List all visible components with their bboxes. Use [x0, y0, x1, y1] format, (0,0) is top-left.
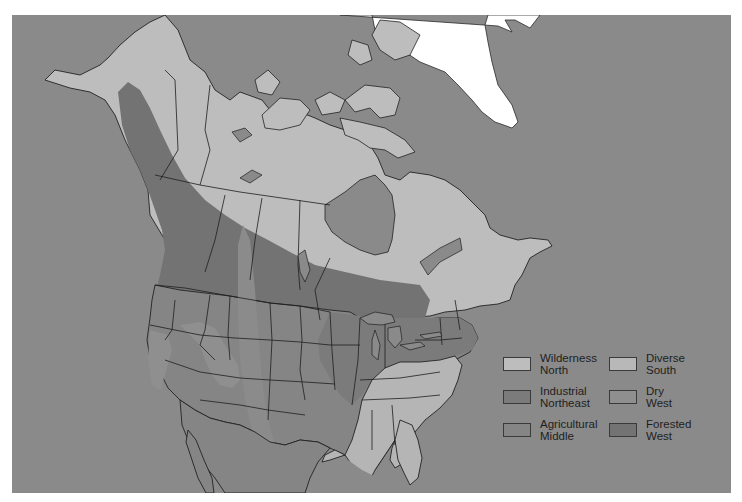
legend-label: Dry West: [646, 385, 672, 409]
swatch-forested-west: [609, 423, 637, 437]
legend-label-line2: West: [646, 430, 691, 442]
legend-label: Agricultural Middle: [540, 418, 598, 442]
legend-label: Wilderness North: [540, 352, 597, 376]
legend-label: Diverse South: [646, 352, 685, 376]
swatch-diverse-south: [609, 357, 637, 371]
legend-label-line1: Dry: [646, 385, 672, 397]
legend-label-line1: Industrial: [540, 385, 590, 397]
legend-item-forested-west: Forested West: [609, 418, 691, 442]
legend-label-line2: North: [540, 364, 597, 376]
swatch-industrial-northeast: [503, 390, 531, 404]
legend-label-line2: Northeast: [540, 397, 590, 409]
swatch-agricultural-middle: [503, 423, 531, 437]
swatch-dry-west: [609, 390, 637, 404]
legend-label-line1: Agricultural: [540, 418, 598, 430]
legend-item-wilderness-north: Wilderness North: [503, 352, 597, 376]
legend-item-agricultural-middle: Agricultural Middle: [503, 418, 598, 442]
legend-label: Forested West: [646, 418, 691, 442]
legend-label-line1: Diverse: [646, 352, 685, 364]
legend-label-line2: Middle: [540, 430, 598, 442]
legend-label-line2: West: [646, 397, 672, 409]
legend-item-dry-west: Dry West: [609, 385, 672, 409]
legend-label: Industrial Northeast: [540, 385, 590, 409]
legend-label-line1: Forested: [646, 418, 691, 430]
legend-item-diverse-south: Diverse South: [609, 352, 685, 376]
legend-label-line2: South: [646, 364, 685, 376]
swatch-wilderness-north: [503, 357, 531, 371]
legend-label-line1: Wilderness: [540, 352, 597, 364]
legend-item-industrial-northeast: Industrial Northeast: [503, 385, 590, 409]
